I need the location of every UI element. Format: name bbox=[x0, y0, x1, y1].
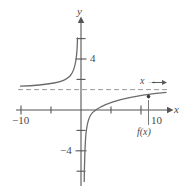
graph-figure: −10 10 4 −4 x y x → f(x) bbox=[0, 0, 193, 196]
y-tick-label-4: 4 bbox=[90, 53, 96, 64]
graph-canvas bbox=[0, 0, 193, 196]
function-label: f(x) bbox=[137, 127, 151, 137]
x-axis-label: x bbox=[174, 104, 179, 115]
curve-right-branch bbox=[84, 92, 166, 181]
x-tick-label-10: 10 bbox=[151, 115, 162, 126]
y-axis-label: y bbox=[77, 6, 82, 17]
curve-left-branch bbox=[21, 38, 78, 86]
x-tick-label-minus-10: −10 bbox=[12, 115, 29, 126]
function-point-marker bbox=[147, 95, 151, 99]
asymptote-annotation-label: x → bbox=[140, 76, 157, 86]
y-tick-label-minus-4: −4 bbox=[60, 145, 72, 156]
